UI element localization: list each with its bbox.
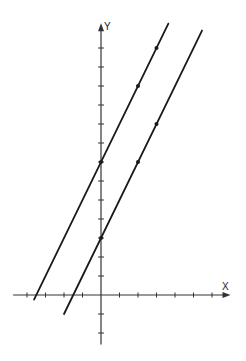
marked-points bbox=[99, 46, 159, 240]
plotted-lines bbox=[34, 24, 202, 314]
x-axis-arrow-icon bbox=[223, 292, 231, 298]
y-axis-label: Y bbox=[104, 21, 111, 32]
coordinate-plot: X Y bbox=[0, 0, 246, 361]
series-line-2 bbox=[64, 31, 202, 314]
x-axis-label: X bbox=[222, 281, 229, 292]
data-point bbox=[99, 160, 103, 164]
data-point bbox=[155, 122, 159, 126]
axis-ticks bbox=[27, 48, 212, 333]
data-point bbox=[155, 46, 159, 50]
data-point bbox=[99, 236, 103, 240]
data-point bbox=[136, 84, 140, 88]
data-point bbox=[136, 160, 140, 164]
